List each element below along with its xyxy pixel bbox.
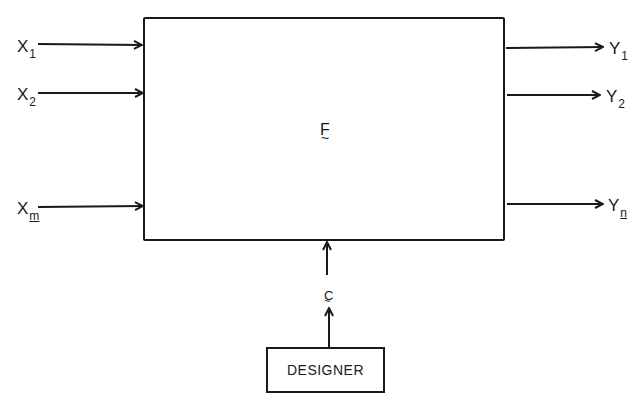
input-label-x2: X2	[17, 86, 36, 108]
output-arrow-y1	[506, 47, 603, 48]
input-label-xm: Xm	[17, 200, 39, 222]
output-label-y1: Y1	[609, 40, 628, 62]
designer-block: DESIGNER	[266, 347, 385, 393]
designer-label: DESIGNER	[287, 362, 364, 378]
output-label-yn: Yn	[608, 197, 627, 219]
system-label-mark: ~	[321, 130, 329, 146]
output-label-y2: Y2	[606, 88, 625, 110]
input-label-x1: X1	[17, 38, 36, 60]
input-arrow-xm	[38, 206, 143, 207]
control-label-mark: ~	[324, 295, 330, 307]
input-arrow-x1	[38, 44, 142, 45]
